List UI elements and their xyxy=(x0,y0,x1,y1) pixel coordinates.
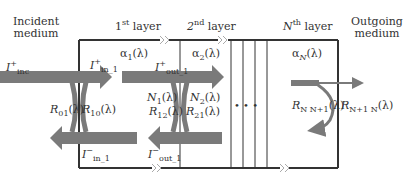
incident-medium-label: Incident medium xyxy=(6,16,66,40)
R01-label: R01(λ) xyxy=(50,104,84,120)
I-inc-label: I+inc xyxy=(6,58,29,78)
ellipsis-dots: • • • xyxy=(234,100,258,112)
layer1-header: 1st layer xyxy=(115,17,161,33)
alpha1-label: α1(λ) xyxy=(120,48,148,64)
outgoing-line2: medium xyxy=(345,28,409,40)
R12-label: R12(λ) xyxy=(149,106,183,122)
alphaN-label: αN(λ) xyxy=(292,48,322,64)
I-out1-minus-label: I−out_1 xyxy=(148,145,181,165)
I-in1-plus-label: I+in_1 xyxy=(90,56,118,76)
R21-label: R21(λ) xyxy=(186,106,220,122)
layer2-header: 2nd layer xyxy=(187,17,236,33)
I-out1-plus-label: I+out_1 xyxy=(155,58,188,78)
RNN1-label: RN N+1(λ) xyxy=(292,100,344,116)
layerN-header: Nth layer xyxy=(283,17,333,33)
I-in1-minus-label: I−in_1 xyxy=(82,145,110,165)
alpha2-label: α2(λ) xyxy=(192,48,220,64)
RN1N-label: RN+1 N(λ) xyxy=(341,100,393,116)
R10-label: R10(λ) xyxy=(82,104,116,120)
outgoing-medium-label: Outgoing medium xyxy=(345,16,409,40)
incident-line2: medium xyxy=(6,28,66,40)
